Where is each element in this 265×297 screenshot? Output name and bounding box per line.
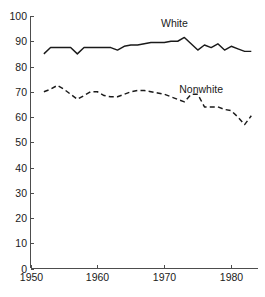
y-tick-label-60: 60	[15, 111, 27, 123]
x-axis-group: 1950196019701980	[20, 265, 258, 283]
chart-plot-area: 0102030405060708090100 1950196019701980 …	[0, 0, 265, 297]
y-tick-label-50: 50	[15, 136, 27, 148]
y-tick-label-10: 10	[15, 237, 27, 249]
y-tick-label-20: 20	[15, 212, 27, 224]
y-tick-label-70: 70	[15, 86, 27, 98]
series-annotation-labels: WhiteNonwhite	[161, 17, 223, 95]
y-tick-label-40: 40	[15, 162, 27, 174]
series-label-white: White	[161, 17, 188, 29]
data-series-group	[44, 37, 251, 124]
series-line-white	[44, 37, 251, 53]
y-tick-label-80: 80	[15, 61, 27, 73]
y-tick-label-100: 100	[9, 10, 27, 22]
x-tick-label-1980: 1980	[220, 271, 244, 283]
y-axis-tick-labels: 0102030405060708090100	[9, 10, 27, 275]
series-label-nonwhite: Nonwhite	[179, 83, 223, 95]
line-chart: 0102030405060708090100 1950196019701980 …	[0, 0, 265, 297]
y-axis-group: 0102030405060708090100	[9, 10, 34, 275]
x-axis-tick-labels: 1950196019701980	[20, 271, 244, 283]
x-tick-label-1950: 1950	[20, 271, 44, 283]
x-axis-ticks	[32, 265, 232, 269]
y-tick-label-30: 30	[15, 187, 27, 199]
x-tick-label-1970: 1970	[153, 271, 177, 283]
y-axis-ticks	[31, 17, 35, 270]
x-tick-label-1960: 1960	[86, 271, 110, 283]
y-tick-label-90: 90	[15, 35, 27, 47]
